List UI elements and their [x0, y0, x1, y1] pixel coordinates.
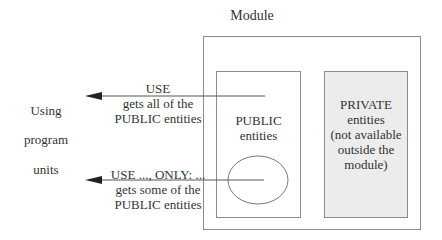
diagram-graphics: [0, 0, 442, 240]
use-all-arrow: [85, 92, 265, 100]
use-only-arrow: [85, 176, 264, 184]
